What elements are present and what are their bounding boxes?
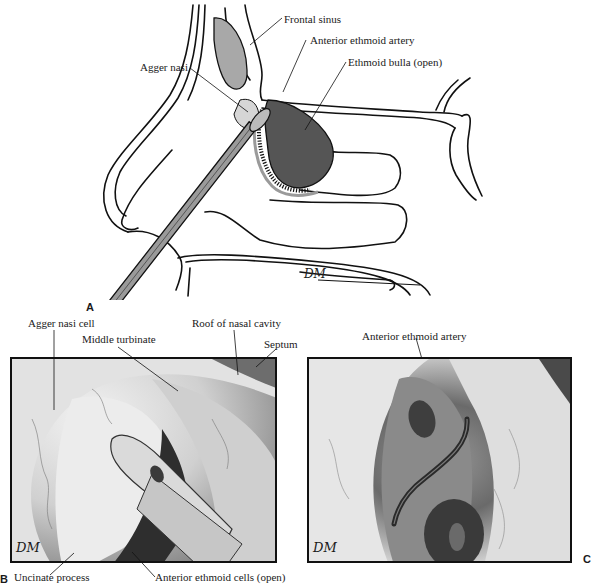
- label-anterior-ethmoid-artery-c: Anterior ethmoid artery: [362, 331, 466, 342]
- label-ethmoid-bulla: Ethmoid bulla (open): [348, 57, 442, 68]
- instrument-shaft: [108, 122, 257, 300]
- panel-a-illustration: DM: [0, 0, 601, 300]
- signature-c: DM: [313, 540, 337, 555]
- label-agger-nasi: Agger nasi: [140, 62, 188, 73]
- label-septum: Septum: [264, 339, 298, 350]
- label-anterior-ethmoid-artery-a: Anterior ethmoid artery: [310, 35, 414, 46]
- panel-letter-b: B: [0, 574, 8, 585]
- signature-b: DM: [16, 540, 40, 555]
- label-anterior-ethmoid-cells: Anterior ethmoid cells (open): [155, 572, 285, 583]
- panel-b-endoscopic-view: DM: [10, 357, 277, 563]
- label-middle-turbinate: Middle turbinate: [82, 334, 156, 345]
- label-roof-of-nasal-cavity: Roof of nasal cavity: [192, 318, 281, 329]
- panel-c-endoscopic-view: DM: [307, 357, 572, 563]
- signature-a: DM: [303, 267, 327, 281]
- panel-letter-a: A: [86, 302, 94, 313]
- label-agger-nasi-cell: Agger nasi cell: [28, 318, 95, 329]
- label-frontal-sinus: Frontal sinus: [284, 14, 341, 25]
- panel-letter-c: C: [583, 554, 591, 565]
- label-uncinate-process: Uncinate process: [14, 572, 89, 583]
- frontal-sinus-shape: [214, 18, 247, 89]
